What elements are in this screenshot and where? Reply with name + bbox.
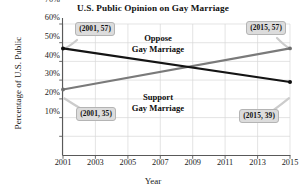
callout-2015-39: (2015, 39) bbox=[239, 109, 279, 123]
callout-2015-57: (2015, 57) bbox=[246, 21, 286, 35]
callout-2001-57: (2001, 57) bbox=[75, 22, 115, 36]
annotation-layer: (2001, 57) (2015, 57) (2001, 35) (2015, … bbox=[0, 0, 306, 192]
callout-2001-35: (2001, 35) bbox=[76, 107, 116, 121]
chart-figure: U.S. Public Opinion on Gay Marriage Perc… bbox=[0, 0, 306, 192]
